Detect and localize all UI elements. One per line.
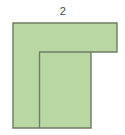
figure-container: 2: [0, 0, 125, 135]
dimension-label-top: 2: [60, 5, 66, 17]
shape-diagram: 2: [0, 0, 125, 135]
